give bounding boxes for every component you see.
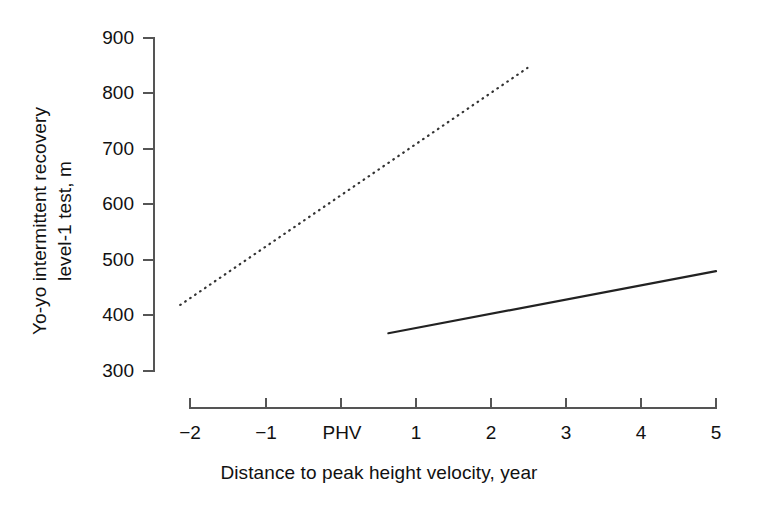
- plot-canvas: [0, 0, 758, 513]
- y-axis: [144, 38, 154, 371]
- series-line-dotted: [180, 68, 527, 305]
- chart-figure: Yo-yo intermittent recovery level-1 test…: [0, 0, 758, 513]
- series-line-solid: [388, 271, 716, 333]
- x-axis: [190, 399, 716, 408]
